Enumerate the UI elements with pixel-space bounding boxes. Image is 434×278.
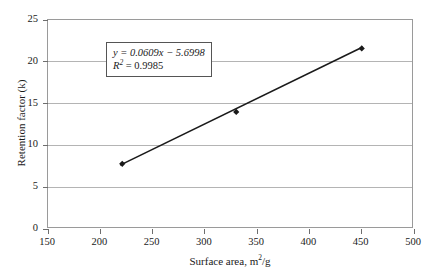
- regression-equation-line: y = 0.0609x − 5.6998: [113, 46, 205, 59]
- x-tick-150: [48, 229, 49, 234]
- data-layer: [48, 20, 414, 229]
- data-point: [119, 161, 125, 167]
- data-point: [359, 45, 365, 51]
- chart-container: 0510152025 150200250300350400450500 Rete…: [0, 0, 434, 278]
- x-tick-label-300: 300: [181, 237, 227, 248]
- r-squared-line: R2 = 0.9985: [113, 59, 205, 72]
- r-squared-value: = 0.9985: [123, 60, 163, 71]
- x-tick-label-450: 450: [338, 237, 384, 248]
- x-axis-title: Surface area, m2/g: [47, 255, 413, 267]
- plot-area: y = 0.0609x − 5.6998 R2 = 0.9985: [47, 19, 413, 228]
- x-tick-label-250: 250: [129, 237, 175, 248]
- x-tick-label-150: 150: [24, 237, 70, 248]
- x-tick-350: [257, 229, 258, 234]
- x-axis-title-text: Surface area, m: [189, 255, 258, 267]
- x-tick-label-350: 350: [233, 237, 279, 248]
- x-axis-title-tail: /g: [262, 255, 271, 267]
- x-tick-450: [361, 229, 362, 234]
- x-tick-400: [309, 229, 310, 234]
- y-axis-title: Retention factor (k): [13, 19, 29, 228]
- x-tick-label-500: 500: [390, 237, 434, 248]
- x-tick-500: [414, 229, 415, 234]
- x-tick-250: [152, 229, 153, 234]
- x-tick-200: [100, 229, 101, 234]
- regression-equation-box: y = 0.0609x − 5.6998 R2 = 0.9985: [106, 42, 212, 77]
- x-tick-label-400: 400: [285, 237, 331, 248]
- x-tick-300: [204, 229, 205, 234]
- x-tick-label-200: 200: [76, 237, 122, 248]
- regression-equation-text: y = 0.0609x − 5.6998: [113, 47, 205, 58]
